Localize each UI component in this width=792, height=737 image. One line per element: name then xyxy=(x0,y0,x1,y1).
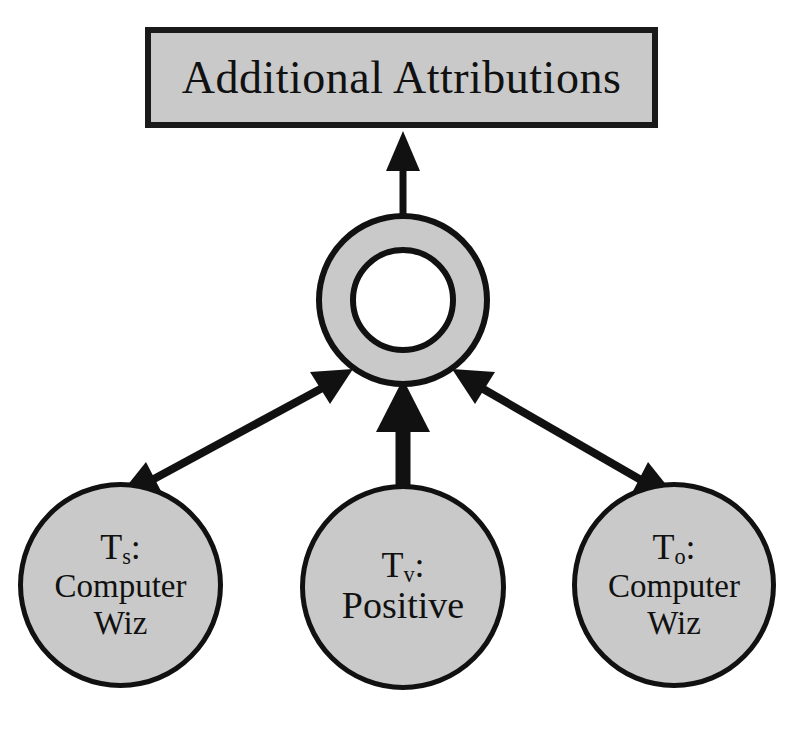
node-value-subscript: v xyxy=(403,562,414,587)
node-source-line-1: Computer xyxy=(55,568,187,604)
title-box-label: Additional Attributions xyxy=(182,55,622,101)
node-source-suffix: : xyxy=(131,527,141,567)
node-value-suffix: : xyxy=(415,545,425,585)
node-value-head: Tv: xyxy=(381,547,424,584)
edge-value-to-hub xyxy=(376,379,430,490)
title-box[interactable]: Additional Attributions xyxy=(145,27,658,128)
node-source[interactable]: Ts: Computer Wiz xyxy=(18,482,223,688)
node-value-symbol: T xyxy=(381,545,403,585)
node-source-symbol: T xyxy=(100,527,122,567)
edge-object-hub-arrowhead-hub xyxy=(452,369,495,404)
hub-annulus[interactable] xyxy=(317,214,489,386)
node-object-line-2: Wiz xyxy=(647,605,701,641)
node-object-head: To: xyxy=(652,529,695,566)
node-object[interactable]: To: Computer Wiz xyxy=(572,482,776,688)
edge-source-hub-arrowhead-hub xyxy=(310,369,353,404)
node-value-line-1: Positive xyxy=(342,585,464,627)
edge-source-hub-shaft xyxy=(152,386,326,480)
edge-source-hub xyxy=(118,369,353,497)
node-source-head: Ts: xyxy=(100,529,141,566)
edge-object-hub xyxy=(452,369,676,497)
node-object-symbol: T xyxy=(652,527,674,567)
node-value[interactable]: Tv: Positive xyxy=(300,484,506,690)
node-source-subscript: s xyxy=(122,544,131,569)
node-object-suffix: : xyxy=(686,527,696,567)
node-object-line-1: Computer xyxy=(608,568,740,604)
edge-hub-to-title-arrowhead xyxy=(386,131,420,171)
edge-object-hub-shaft xyxy=(478,386,641,480)
node-source-line-2: Wiz xyxy=(94,605,148,641)
hub-inner-hole xyxy=(353,250,453,350)
node-object-subscript: o xyxy=(674,544,685,569)
edge-hub-to-title xyxy=(386,131,420,218)
diagram-canvas: Additional Attributions Ts: Computer Wiz… xyxy=(0,0,792,737)
